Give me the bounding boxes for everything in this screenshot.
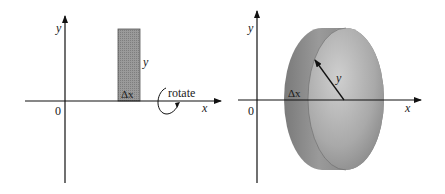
left-x-axis-label: x	[201, 101, 208, 115]
solid-of-revolution-diagram: y 0 x y Δx rotate y 0 x y Δx	[0, 0, 445, 194]
thickness-label: Δx	[288, 87, 301, 99]
left-origin-label: 0	[55, 104, 61, 118]
right-y-axis-label: y	[247, 21, 254, 35]
disk-front-face	[308, 28, 384, 170]
radius-label: y	[335, 71, 342, 85]
right-panel: y 0 x y Δx	[238, 11, 421, 183]
right-origin-label: 0	[248, 104, 254, 118]
right-x-axis-label: x	[404, 101, 411, 115]
strip-width-label: Δx	[121, 88, 134, 100]
left-y-axis-label: y	[55, 21, 62, 35]
left-panel: y 0 x y Δx rotate	[25, 16, 221, 183]
rotate-label: rotate	[168, 86, 195, 100]
strip-height-label: y	[142, 55, 149, 69]
